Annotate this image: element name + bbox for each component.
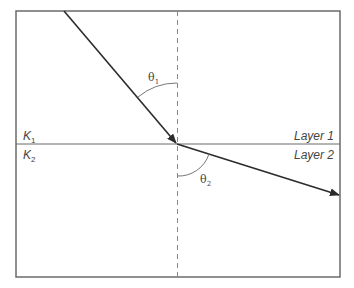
k1-label: K1 (23, 129, 36, 145)
k2-label: K2 (23, 148, 36, 164)
layer2-label: Layer 2 (294, 148, 334, 162)
incident-ray (64, 11, 176, 143)
refraction-diagram: θ1 θ2 K1 K2 Layer 1 Layer 2 (0, 0, 354, 288)
theta2-label: θ2 (200, 173, 211, 188)
theta1-label: θ1 (148, 71, 159, 86)
layer1-label: Layer 1 (294, 129, 334, 143)
